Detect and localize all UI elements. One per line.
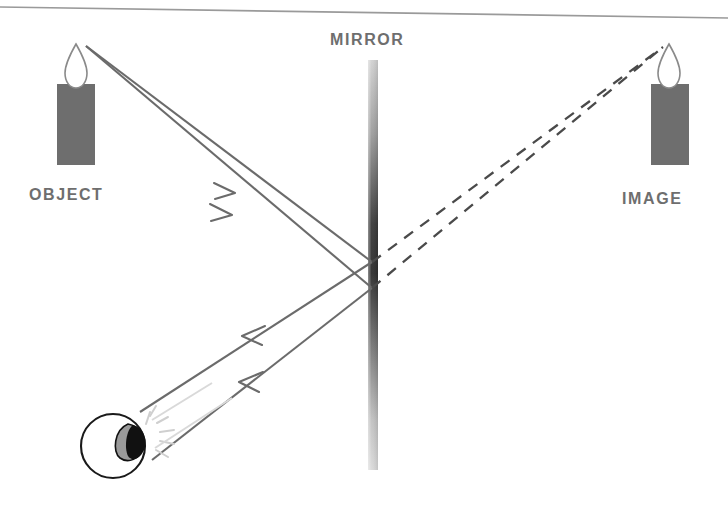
image-label: IMAGE	[622, 190, 682, 208]
image-candle	[651, 44, 689, 165]
reflected-ray-2	[152, 288, 372, 460]
incident-rays	[86, 46, 372, 288]
object-candle	[57, 44, 95, 165]
object-label: OBJECT	[29, 186, 104, 204]
ray-diagram	[0, 0, 728, 508]
virtual-ray-2	[372, 47, 663, 288]
diagram-canvas: MIRROR OBJECT IMAGE	[0, 0, 728, 508]
eye-light-beam	[152, 383, 232, 448]
incident-ray-1	[86, 46, 372, 262]
image-candle-body	[651, 84, 689, 165]
virtual-ray-1	[372, 47, 663, 262]
virtual-rays	[372, 47, 663, 288]
eye-icon	[81, 383, 232, 478]
eye-sparkle-icon	[146, 406, 174, 457]
incident-ray-2	[86, 46, 372, 288]
object-candle-flame	[65, 44, 87, 88]
page-rule	[0, 7, 728, 18]
object-candle-body	[57, 84, 95, 165]
mirror-label: MIRROR	[330, 31, 404, 49]
incident-ray-2-arrow-icon	[210, 204, 232, 221]
image-candle-flame	[658, 44, 680, 88]
mirror-bar	[368, 60, 378, 470]
incident-ray-1-arrow-icon	[214, 183, 235, 199]
reflected-ray-1-arrow-icon	[242, 326, 265, 345]
